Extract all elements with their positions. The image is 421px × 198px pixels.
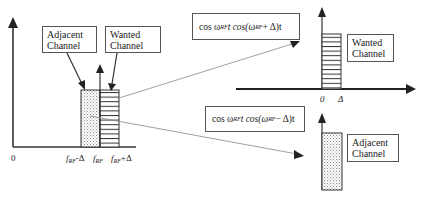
upper-right-wanted-label-line2: Channel bbox=[352, 48, 389, 59]
left-adjacent-channel-block bbox=[81, 90, 100, 147]
adjacent-pointer-arrow bbox=[67, 53, 85, 90]
left-adjacent-label-line1: Adjacent bbox=[47, 29, 92, 40]
lower-formula-mid: t cos(ω bbox=[241, 113, 269, 125]
left-origin-label: 0 bbox=[11, 153, 16, 163]
tick-f-rf-minus-delta-sub: RF bbox=[69, 158, 76, 164]
left-wanted-label-line2: Channel bbox=[110, 40, 156, 51]
wanted-pointer-arrow bbox=[108, 53, 117, 91]
left-wanted-channel-label: Wanted Channel bbox=[105, 26, 161, 53]
lower-right-adjacent-block bbox=[322, 133, 342, 190]
lower-formula-sub2: RF bbox=[268, 113, 275, 125]
upper-formula-mid: t cos(ω bbox=[228, 21, 256, 33]
tick-f-rf-plus-delta-suffix: +Δ bbox=[121, 153, 132, 163]
lower-right-adjacent-label-line1: Adjacent bbox=[352, 137, 394, 148]
upper-formula-sub2: RF bbox=[255, 21, 262, 33]
lower-right-adjacent-channel-label: Adjacent Channel bbox=[347, 134, 399, 162]
upper-right-tick-zero: 0 bbox=[320, 94, 325, 104]
tick-f-rf-sub: RF bbox=[96, 158, 103, 164]
tick-f-rf-minus-delta-suffix: -Δ bbox=[76, 153, 85, 163]
lower-formula-sub1: RF bbox=[233, 113, 240, 125]
upper-formula-sub1: RF bbox=[220, 21, 227, 33]
left-adjacent-channel-label: Adjacent Channel bbox=[42, 26, 97, 53]
left-y-axis bbox=[8, 17, 18, 147]
tick-f-rf-minus-delta: fRF-Δ bbox=[66, 153, 85, 166]
tick-f-rf: fRF bbox=[93, 153, 103, 166]
lower-formula-pre: cos ω bbox=[212, 113, 233, 125]
upper-right-wanted-label-line1: Wanted bbox=[352, 37, 389, 48]
lower-right-adjacent-label-line2: Channel bbox=[352, 148, 394, 159]
tick-f-rf-plus-delta-sub: RF bbox=[114, 158, 121, 164]
upper-mixing-formula: cos ωRF t cos(ωRF + Δ)t bbox=[192, 13, 300, 40]
upper-right-wanted-block bbox=[322, 34, 341, 89]
upper-formula-pre: cos ω bbox=[199, 21, 220, 33]
left-adjacent-label-line2: Channel bbox=[47, 40, 92, 51]
lower-formula-post: − Δ)t bbox=[276, 113, 295, 125]
upper-formula-post: + Δ)t bbox=[263, 21, 282, 33]
tick-f-rf-plus-delta: fRF+Δ bbox=[111, 153, 132, 166]
left-wanted-label-line1: Wanted bbox=[110, 29, 156, 40]
upper-right-tick-delta: Δ bbox=[338, 94, 343, 104]
upper-right-wanted-channel-label: Wanted Channel bbox=[347, 34, 394, 62]
lower-mixing-formula: cos ωRF t cos(ωRF − Δ)t bbox=[205, 106, 305, 132]
